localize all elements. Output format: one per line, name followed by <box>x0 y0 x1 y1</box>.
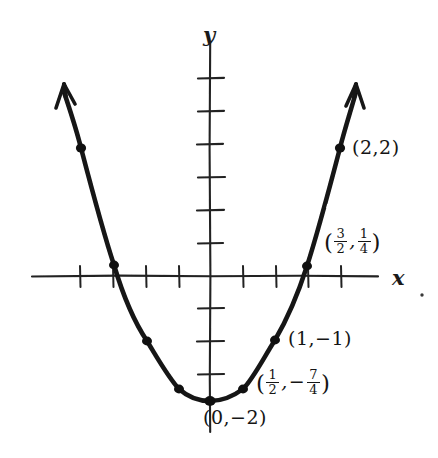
y-tick-0p25-extra <box>198 243 223 244</box>
fraction-one-quarter: 14 <box>358 227 371 255</box>
y-tick-2p5 <box>198 78 224 79</box>
label-close-paren: ) <box>372 229 381 255</box>
y-tick-neg1 <box>197 341 224 342</box>
label-open-paren: ( <box>324 229 333 255</box>
y-tick-1 <box>198 177 225 178</box>
y-tick-neg0p5 <box>198 308 224 309</box>
figure-canvas: y x (2,2) (1,−1) (0,−2) (32,14) (12,−74) <box>0 0 438 458</box>
y-axis-label: y <box>203 22 215 47</box>
label-point-1-neg1: (1,−1) <box>288 327 352 349</box>
fraction-seven-quarters: 74 <box>307 368 320 396</box>
fraction-denominator: 2 <box>334 241 347 256</box>
fraction-denominator: 4 <box>358 241 371 256</box>
label-comma: , <box>348 229 357 251</box>
label-point-one-half-neg-seven-quarters: (12,−74) <box>256 369 331 397</box>
arrowhead-upper-right-shaft <box>354 84 356 98</box>
x-tick-1 <box>276 266 277 287</box>
fraction-one-half: 12 <box>266 368 279 396</box>
x-tick-0p5 <box>243 266 244 287</box>
x-tick-2 <box>341 266 342 287</box>
point-dot-neg1p5-0p25 <box>109 261 119 270</box>
point-dot-neg2-2 <box>76 143 86 152</box>
point-dot-neg1-neg1 <box>142 337 152 346</box>
point-dot-0-neg2 <box>204 396 215 406</box>
fraction-numerator: 1 <box>266 368 279 382</box>
point-dot-2-2 <box>335 143 345 152</box>
y-tick-0p5 <box>197 210 224 211</box>
point-dot-1p5-0p25 <box>302 262 312 271</box>
x-axis-label: x <box>392 265 405 290</box>
stray-ink-speck <box>420 293 423 296</box>
arrowhead-upper-left-shaft <box>64 84 66 98</box>
fraction-three-halves: 32 <box>334 227 347 255</box>
label-close-paren: ) <box>321 370 330 396</box>
label-point-0-neg2: (0,−2) <box>203 406 267 428</box>
y-tick-neg1p5 <box>198 374 224 375</box>
x-tick-neg0p5 <box>179 266 180 287</box>
y-tick-1p5 <box>197 144 223 145</box>
x-tick-neg2 <box>80 266 81 287</box>
label-point-2-2: (2,2) <box>352 136 400 158</box>
point-dot-0p5-neg1p75 <box>238 385 248 394</box>
point-dot-1-neg1 <box>270 336 280 345</box>
fraction-numerator: 7 <box>307 368 320 382</box>
fraction-denominator: 2 <box>266 382 279 397</box>
fraction-denominator: 4 <box>307 382 320 397</box>
label-point-three-halves-one-quarter: (32,14) <box>324 228 381 256</box>
fraction-numerator: 1 <box>358 227 371 241</box>
label-comma: , <box>280 370 289 392</box>
fraction-numerator: 3 <box>334 227 347 241</box>
x-axis-line <box>32 276 378 277</box>
label-minus-sign: − <box>289 370 306 392</box>
point-dot-neg0p5-neg1p75 <box>174 385 184 394</box>
x-tick-neg1 <box>146 266 147 287</box>
y-tick-2 <box>198 111 224 112</box>
label-open-paren: ( <box>256 370 265 396</box>
